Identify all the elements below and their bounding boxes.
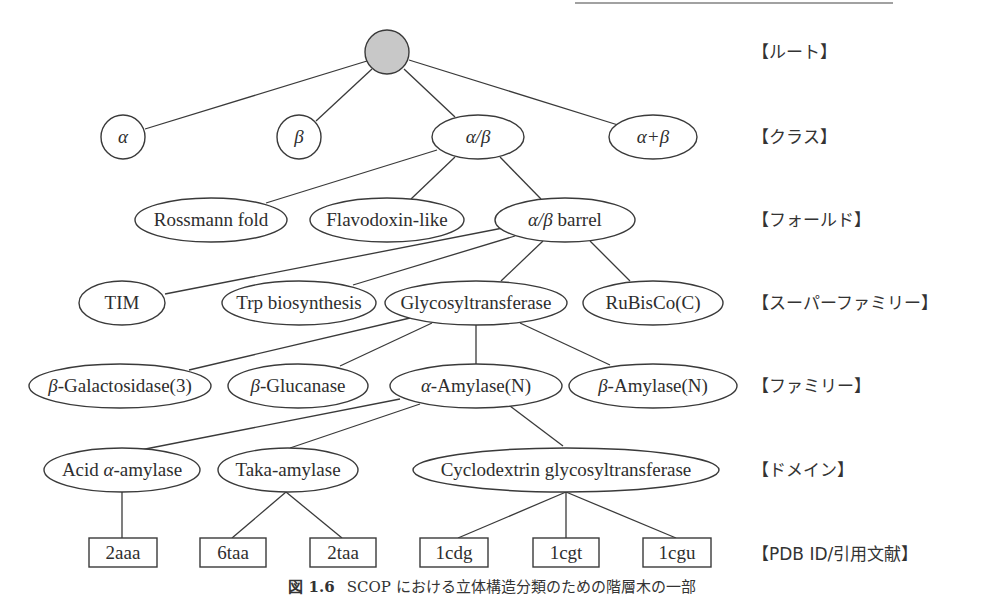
node-pdb-6taa: 6taa	[200, 538, 266, 567]
label-pdb-6taa: 6taa	[217, 542, 249, 563]
node-sf-trp: Trp biosynthesis	[222, 281, 376, 325]
label-dom-cyclo: Cyclodextrin glycosyltransferase	[441, 459, 692, 480]
label-sf-trp: Trp biosynthesis	[236, 292, 361, 313]
root-circle	[365, 30, 409, 74]
node-root	[365, 30, 409, 74]
edge-glyco-bgal	[189, 318, 410, 370]
node-pdb-2taa: 2taa	[310, 538, 376, 567]
label-dom-acid: Acid α-amylase	[62, 459, 182, 480]
label-fold-rossmann: Rossmann fold	[154, 209, 269, 230]
edge-cyclo-1cgu	[566, 492, 676, 538]
level-label-root: 【ルート】	[752, 42, 837, 62]
edge-aamy-acid	[125, 399, 400, 453]
node-pdb-1cgt: 1cgt	[533, 538, 599, 567]
node-fam-bamy: β-Amylase(N)	[569, 364, 737, 408]
node-fam-bglu: β-Glucanase	[228, 364, 368, 408]
node-sf-glyco: Glycosyltransferase	[385, 281, 567, 325]
label-pdb-1cgu: 1cgu	[659, 542, 696, 563]
edge-root-alphaplusbeta	[409, 60, 618, 125]
label-pdb-1cdg: 1cdg	[436, 542, 473, 563]
label-fold-flavodoxin: Flavodoxin-like	[326, 209, 447, 230]
edge-ab-flavodoxin	[411, 157, 455, 199]
level-label-family: 【ファミリー】	[752, 376, 871, 396]
label-pdb-2taa: 2taa	[327, 542, 359, 563]
node-pdb-1cgu: 1cgu	[643, 538, 711, 567]
edge-taka-6taa	[232, 492, 286, 538]
level-label-pdb: 【PDB ID/引用文献】	[752, 544, 918, 564]
label-pdb-1cgt: 1cgt	[550, 542, 583, 563]
label-class-beta: β	[293, 126, 304, 147]
edge-glyco-bamy	[520, 323, 610, 365]
level-label-superfamily: 【スーパーファミリー】	[752, 293, 938, 313]
node-class-beta: β	[277, 115, 321, 159]
node-dom-cyclo: Cyclodextrin glycosyltransferase	[413, 448, 719, 492]
edge-glyco-bglu	[340, 323, 432, 366]
caption-text: 図 1.6SCOP における立体構造分類のための階層木の一部	[288, 578, 695, 596]
node-pdb-2aaa: 2aaa	[89, 538, 157, 567]
node-fold-barrel: α/β barrel	[495, 198, 635, 242]
edge-barrel-trp	[353, 236, 515, 285]
label-fam-bglu: β-Glucanase	[250, 375, 346, 396]
node-fold-rossmann: Rossmann fold	[135, 198, 287, 242]
edge-barrel-rubisco	[590, 241, 630, 281]
edge-aamy-taka	[290, 404, 420, 448]
level-labels: 【ルート】 【クラス】 【フォールド】 【スーパーファミリー】 【ファミリー】 …	[752, 42, 938, 564]
label-class-alpha-plus-beta: α+β	[637, 126, 670, 147]
label-sf-tim: TIM	[105, 292, 140, 313]
node-pdb-1cdg: 1cdg	[420, 538, 488, 567]
node-sf-rubisco: RuBisCo(C)	[583, 281, 723, 325]
label-class-alpha-beta: α/β	[466, 126, 491, 147]
level-label-fold: 【フォールド】	[752, 210, 871, 230]
level-label-class: 【クラス】	[752, 127, 837, 147]
level-label-domain: 【ドメイン】	[752, 460, 854, 480]
edge-cyclo-1cdg	[458, 492, 566, 538]
label-sf-rubisco: RuBisCo(C)	[605, 292, 700, 314]
edge-root-beta	[316, 69, 372, 121]
node-dom-acid: Acid α-amylase	[44, 448, 200, 492]
figure-caption: 図 1.6SCOP における立体構造分類のための階層木の一部	[288, 578, 695, 596]
node-sf-tim: TIM	[79, 281, 165, 325]
node-class-alpha-beta: α/β	[432, 115, 524, 159]
label-dom-taka: Taka-amylase	[235, 459, 340, 480]
label-fold-barrel: α/β barrel	[528, 209, 602, 230]
edge-aamy-cyclo	[510, 406, 563, 446]
label-fam-bamy: β-Amylase(N)	[597, 375, 708, 397]
edge-root-alpha	[145, 61, 367, 129]
edge-barrel-glyco	[501, 241, 543, 281]
label-fam-bgal: β-Galactosidase(3)	[47, 375, 191, 397]
label-sf-glyco: Glycosyltransferase	[401, 292, 552, 313]
node-class-alpha-plus-beta: α+β	[609, 115, 697, 159]
edge-root-alphabeta	[404, 69, 455, 117]
node-fold-flavodoxin: Flavodoxin-like	[310, 198, 464, 242]
label-class-alpha: α	[118, 126, 129, 147]
edge-taka-2taa	[286, 492, 342, 538]
edge-ab-barrel	[500, 157, 541, 199]
node-class-alpha: α	[101, 115, 145, 159]
label-pdb-2aaa: 2aaa	[106, 542, 141, 563]
scop-tree-diagram: α β α/β α+β Rossmann fold Flavodoxin-lik…	[0, 0, 984, 600]
node-fam-bgal: β-Galactosidase(3)	[29, 364, 211, 408]
node-dom-taka: Taka-amylase	[218, 448, 358, 492]
node-fam-aamy: α-Amylase(N)	[390, 364, 562, 408]
label-fam-aamy: α-Amylase(N)	[421, 375, 531, 397]
